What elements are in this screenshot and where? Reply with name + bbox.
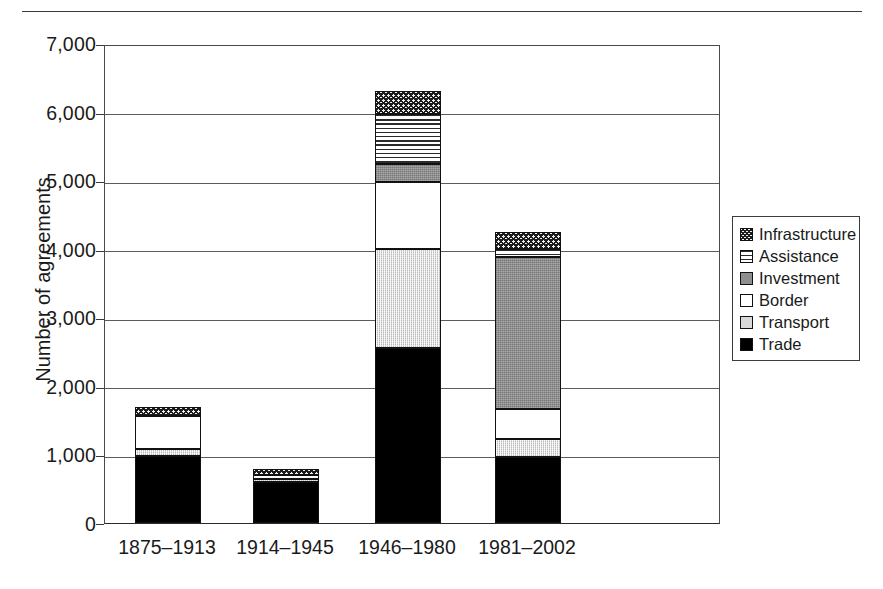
bar-segment-border[interactable] [253,475,319,479]
legend-label-assistance: Assistance [759,248,839,265]
legend-item-border[interactable]: Border [740,289,859,311]
bar-segment-assistance[interactable] [375,114,441,164]
bar-segment-assistance[interactable] [495,249,561,258]
bar-segment-investment[interactable] [495,257,561,409]
border-swatch-icon [740,294,753,307]
bar-segment-infrastructure[interactable] [495,232,561,249]
plot-area [104,45,720,524]
bar-segment-transport[interactable] [375,249,441,348]
y-tick-mark-4000 [96,251,104,252]
legend-label-infrastructure: Infrastructure [759,226,856,243]
bar-segment-transport[interactable] [253,479,319,482]
y-tick-mark-6000 [96,114,104,115]
legend-item-infrastructure[interactable]: Infrastructure [740,223,859,245]
y-tick-mark-3000 [96,319,104,320]
stacked-bar-chart-figure: 7,000 6,000 5,000 4,000 3,000 2,000 1,00… [0,0,883,589]
y-tick-label-0: 0 [12,515,96,535]
legend-label-border: Border [759,292,809,309]
y-tick-label-6000: 6,000 [12,104,96,124]
bar-segment-border[interactable] [495,409,561,439]
bar-segment-border[interactable] [135,416,201,449]
bar-segment-trade[interactable] [495,457,561,523]
y-tick-mark-7000 [96,45,104,46]
investment-swatch-icon [740,272,753,285]
y-axis-title: Number of agreements [32,150,55,410]
legend-label-transport: Transport [759,314,829,331]
legend-item-trade[interactable]: Trade [740,333,859,355]
y-tick-label-7000: 7,000 [12,35,96,55]
legend-label-trade: Trade [759,336,802,353]
legend-item-transport[interactable]: Transport [740,311,859,333]
bar-segment-investment[interactable] [375,164,441,182]
transport-swatch-icon [740,316,753,329]
y-tick-mark-1000 [96,456,104,457]
bar-segment-trade[interactable] [375,348,441,523]
bar-segment-trade[interactable] [135,456,201,523]
trade-swatch-icon [740,338,753,351]
legend-item-assistance[interactable]: Assistance [740,245,859,267]
y-tick-mark-0 [96,524,104,525]
y-tick-mark-5000 [96,182,104,183]
bar-segment-infrastructure[interactable] [253,469,319,475]
legend-label-investment: Investment [759,270,840,287]
chart-legend: Infrastructure Assistance Investment Bor… [732,216,860,361]
bar-segment-trade[interactable] [253,482,319,523]
infrastructure-swatch-icon [740,228,753,241]
legend-item-investment[interactable]: Investment [740,267,859,289]
bar-segment-transport[interactable] [495,439,561,458]
bar-segment-infrastructure[interactable] [135,407,201,416]
x-tick-label-1981-2002: 1981–2002 [442,536,612,558]
assistance-swatch-icon [740,250,753,263]
bar-segment-border[interactable] [375,182,441,249]
bar-segment-infrastructure[interactable] [375,91,441,114]
y-tick-mark-2000 [96,388,104,389]
bar-segment-transport[interactable] [135,449,201,456]
y-tick-label-1000: 1,000 [12,446,96,466]
